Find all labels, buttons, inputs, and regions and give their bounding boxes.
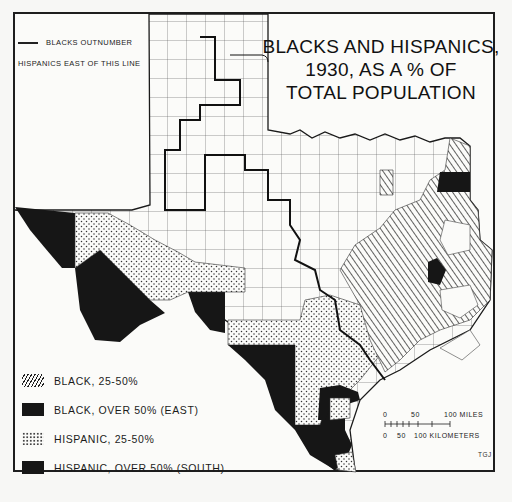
- legend-item-hispanic-25-50: HISPANIC, 25-50%: [22, 424, 225, 453]
- scale-km-0: 0: [383, 432, 387, 439]
- legend-item-black-25-50: BLACK, 25-50%: [22, 366, 225, 395]
- line-legend-text-2: HISPANICS EAST OF THIS LINE: [18, 59, 141, 68]
- title-line-3: TOTAL POPULATION: [256, 81, 506, 104]
- title-line-2: 1930, AS A % OF: [256, 58, 506, 81]
- region-black-over-50-ne: [437, 172, 470, 192]
- map-title: BLACKS AND HISPANICS, 1930, AS A % OF TO…: [256, 35, 506, 104]
- region-black-25-50-northeast-strip: [380, 170, 393, 195]
- scale-mi-0: 0: [383, 411, 387, 418]
- scale-km-100: 100 KILOMETERS: [414, 432, 480, 439]
- legend-item-hispanic-over-50: HISPANIC, OVER 50% (SOUTH): [22, 453, 225, 482]
- legend-label: HISPANIC, OVER 50% (SOUTH): [54, 462, 225, 474]
- scale-mi-50: 50: [411, 411, 420, 418]
- author-credit: TGJ: [478, 451, 492, 458]
- legend-label: HISPANIC, 25-50%: [54, 433, 154, 445]
- legend-item-black-over-50: BLACK, OVER 50% (EAST): [22, 395, 225, 424]
- scale-miles-labels: 0 50 100 MILES: [383, 411, 493, 420]
- divider-line-legend: BLACKS OUTNUMBER HISPANICS EAST OF THIS …: [18, 38, 141, 68]
- hatch-swatch-icon: [22, 374, 44, 387]
- title-line-1: BLACKS AND HISPANICS,: [256, 35, 506, 58]
- scale-mi-100: 100 MILES: [444, 411, 483, 418]
- solid-swatch-icon: [22, 461, 44, 474]
- scale-km-50: 50: [397, 432, 406, 439]
- region-hispanic-25-50-coastal-inset: [330, 398, 350, 420]
- region-hispanic-over-50-west: [15, 207, 75, 268]
- legend-label: BLACK, OVER 50% (EAST): [54, 404, 199, 416]
- line-swatch-icon: [18, 42, 38, 44]
- dots-swatch-icon: [22, 432, 44, 445]
- map-legend: BLACK, 25-50% BLACK, OVER 50% (EAST) HIS…: [22, 366, 225, 482]
- scale-bar: 0 50 100 MILES 0 50 100 KILOMETERS: [383, 411, 493, 441]
- legend-label: BLACK, 25-50%: [54, 375, 138, 387]
- region-hispanic-25-50-tip: [335, 452, 356, 472]
- scale-km-labels: 0 50 100 KILOMETERS: [383, 432, 493, 441]
- solid-swatch-icon: [22, 403, 44, 416]
- line-legend-text-1: BLACKS OUTNUMBER: [46, 38, 132, 47]
- region-hispanic-over-50-central: [188, 292, 225, 333]
